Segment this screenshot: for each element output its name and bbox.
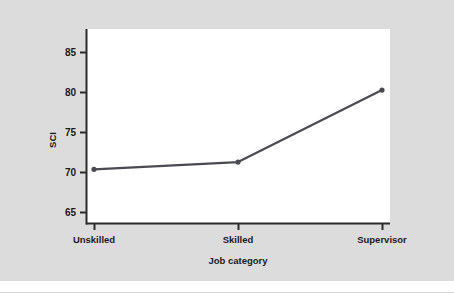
- sci-by-job-category-line-chart: 65 70 75 80 85 SCI Unskilled Skilled Sup…: [0, 0, 454, 281]
- x-tick-label-unskilled: Unskilled: [73, 234, 115, 245]
- y-tick-label-70: 70: [65, 167, 77, 178]
- x-tick-label-skilled: Skilled: [223, 234, 254, 245]
- x-tick-label-supervisor: Supervisor: [357, 234, 407, 245]
- y-axis-title: SCI: [47, 132, 58, 148]
- x-axis-title: Job category: [208, 255, 268, 266]
- y-tick-label-65: 65: [65, 207, 77, 218]
- data-point-unskilled: [91, 167, 96, 172]
- y-tick-label-75: 75: [65, 127, 77, 138]
- y-tick-label-85: 85: [65, 47, 77, 58]
- y-tick-label-80: 80: [65, 87, 77, 98]
- page-divider-rule: [0, 292, 454, 293]
- plot-area: [86, 29, 390, 224]
- x-axis-ticks: [95, 224, 383, 230]
- chart-figure-panel: 65 70 75 80 85 SCI Unskilled Skilled Sup…: [0, 0, 454, 281]
- data-point-supervisor: [379, 88, 384, 93]
- y-axis-ticks: [80, 53, 86, 213]
- data-point-skilled: [235, 160, 240, 165]
